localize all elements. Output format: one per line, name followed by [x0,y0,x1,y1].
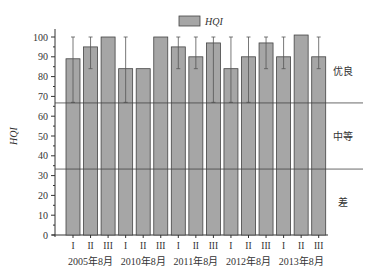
x-tick-label: II [87,241,93,251]
zone-label: 中等 [333,130,353,142]
y-tick-label: 40 [38,150,48,161]
zone-label: 差 [338,196,348,208]
x-tick-label: III [156,241,166,251]
chart-svg: 0102030405060708090100HQIIIIIIIIIIIIIIII… [0,0,376,280]
zone-label: 优良 [333,65,353,77]
x-tick-label: II [140,241,146,251]
bar [259,43,273,235]
y-tick-label: 70 [38,91,48,102]
x-tick-label: III [103,241,113,251]
bar [294,35,308,235]
x-tick-label: I [229,241,232,251]
y-tick-label: 30 [38,170,48,181]
x-group-label: 2013年8月 [279,255,324,267]
y-tick-label: 80 [38,71,48,82]
bar [84,47,98,235]
x-tick-label: III [209,241,219,251]
x-tick-label: I [282,241,285,251]
bar [277,57,291,235]
y-tick-label: 20 [38,190,48,201]
x-tick-label: II [298,241,304,251]
x-tick-label: III [261,241,271,251]
x-tick-label: II [245,241,251,251]
x-group-label: 2012年8月 [226,255,271,267]
legend-swatch [179,16,200,26]
hqi-bar-chart: 0102030405060708090100HQIIIIIIIIIIIIIIII… [0,0,376,280]
x-tick-label: II [193,241,199,251]
y-tick-label: 10 [38,210,48,221]
bar [136,69,150,235]
bar [312,57,326,235]
x-group-label: 2005年8月 [68,255,113,267]
bar [171,47,185,235]
bar [189,57,203,235]
legend-label: HQI [204,16,223,27]
x-tick-label: I [71,241,74,251]
x-tick-label: I [177,241,180,251]
y-axis-label: HQI [8,126,19,145]
y-tick-label: 60 [38,111,48,122]
y-tick-label: 0 [43,230,48,241]
y-tick-label: 100 [33,32,48,43]
x-group-label: 2010年8月 [121,255,166,267]
x-tick-label: III [314,241,324,251]
bar [101,37,115,235]
x-tick-label: I [124,241,127,251]
bar [154,37,168,235]
y-tick-label: 90 [38,51,48,62]
x-group-label: 2011年8月 [174,255,219,267]
y-tick-label: 50 [38,131,48,142]
